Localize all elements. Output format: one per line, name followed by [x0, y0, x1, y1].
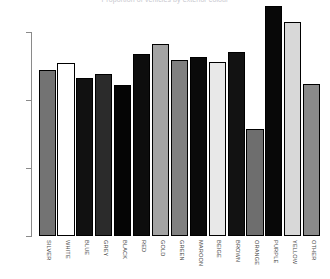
bar — [303, 84, 320, 236]
bar — [114, 85, 131, 236]
bar — [133, 54, 150, 236]
bar — [76, 78, 93, 236]
bar — [39, 70, 56, 236]
x-axis-tick-label: WHITE — [63, 240, 73, 279]
x-axis-tick-label: GOLD — [158, 240, 168, 279]
x-axis-tick-label: BLACK — [120, 240, 130, 279]
x-axis-tick-label: OTHER — [309, 240, 319, 279]
bar — [265, 6, 282, 236]
x-axis-tick-label: GREEN — [177, 240, 187, 279]
x-axis-tick-label: SILVER — [44, 240, 54, 279]
x-axis-tick-label: MAROON — [196, 240, 206, 279]
x-axis-tick-label: GREY — [101, 240, 111, 279]
bar — [57, 63, 74, 236]
x-axis-tick-label: PURPLE — [271, 240, 281, 279]
x-axis-tick-label: BLUE — [82, 240, 92, 279]
plot-area: 0.150.100.050.00 SILVERWHITEBLUEGREYBLAC… — [0, 0, 330, 279]
bar — [152, 44, 169, 236]
x-axis-tick-label: YELLOW — [290, 240, 300, 279]
x-axis-tick-label: ORANGE — [252, 240, 262, 279]
bar — [228, 52, 245, 236]
bar — [284, 22, 301, 236]
x-axis-tick-label: BEIGE — [214, 240, 224, 279]
x-axis-labels: SILVERWHITEBLUEGREYBLACKREDGOLDGREENMARO… — [0, 237, 330, 279]
bar-chart: Proportion of vehicles by exterior colou… — [0, 0, 330, 279]
bar — [171, 60, 188, 236]
x-axis-tick-label: RED — [139, 240, 149, 279]
bar — [190, 57, 207, 236]
x-axis-tick-label: BROWN — [233, 240, 243, 279]
bar — [209, 62, 226, 236]
bar — [246, 129, 263, 236]
bar — [95, 74, 112, 236]
